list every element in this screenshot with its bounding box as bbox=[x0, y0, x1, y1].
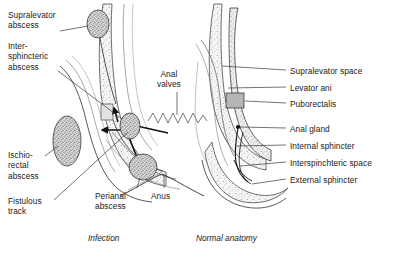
label-perianal-abscess: Perianal abscess bbox=[95, 191, 126, 212]
leader-supralevator-abscess bbox=[60, 26, 88, 31]
leader-external-sphincter bbox=[252, 179, 286, 184]
label-supralevator-space: Supralevator space bbox=[290, 66, 362, 76]
label-intersphincteric-abscess: Inter- sphincteric abscess bbox=[8, 41, 48, 72]
perianal-abscess-shape bbox=[129, 154, 157, 180]
internal-sphincter-left bbox=[101, 104, 113, 120]
anal-gland-dot bbox=[236, 125, 240, 129]
figure-anorectal-abscess-diagram: Supralevator abscess Inter- sphincteric … bbox=[0, 0, 395, 259]
label-levator-ani: Levator ani bbox=[290, 83, 332, 93]
diagram-artwork bbox=[0, 0, 395, 259]
label-internal-sphincter: Internal sphincter bbox=[290, 141, 355, 151]
caption-infection: Infection bbox=[88, 233, 119, 243]
label-anal-gland: Anal gland bbox=[290, 124, 330, 134]
label-anal-valves: Anal valves bbox=[157, 69, 181, 90]
ischiorectal-abscess-shape bbox=[53, 116, 81, 166]
label-supralevator-abscess: Supralevator abscess bbox=[8, 10, 56, 31]
leader-puborectalis bbox=[245, 101, 286, 103]
puborectalis-band bbox=[226, 93, 244, 108]
supralevator-abscess-shape bbox=[87, 10, 109, 38]
label-fistulous-track: Fistulous track bbox=[8, 196, 42, 217]
label-anus: Anus bbox=[151, 191, 170, 201]
label-external-sphincter: External sphincter bbox=[290, 175, 357, 185]
label-ischiorectal-abscess: Ischio- rectal abscess bbox=[8, 150, 39, 181]
anal-valves-zigzag bbox=[148, 113, 207, 123]
normal-anatomy-side bbox=[195, 4, 288, 208]
label-puborectalis: Puborectalis bbox=[290, 99, 336, 109]
intersphincteric-abscess-shape bbox=[120, 113, 140, 139]
caption-normal-anatomy: Normal anatomy bbox=[196, 233, 257, 243]
label-interspinchteric-space: Interspinchteric space bbox=[290, 158, 372, 168]
fistulous-track-internal-opening bbox=[137, 126, 168, 133]
